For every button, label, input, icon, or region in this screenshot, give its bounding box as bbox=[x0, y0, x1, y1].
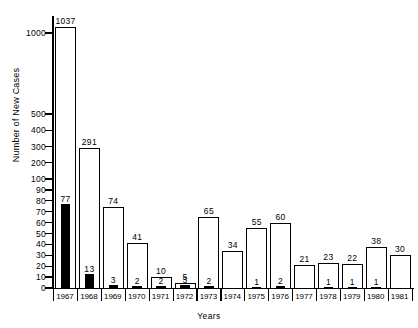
bar-total-value: 291 bbox=[71, 137, 108, 147]
bar-total-value: 74 bbox=[95, 196, 132, 206]
bar-subset bbox=[371, 287, 381, 288]
y-tick-label: 40 bbox=[36, 239, 46, 249]
bar-total-value: 41 bbox=[119, 232, 156, 242]
bar-total bbox=[390, 255, 411, 288]
bar-total-value: 1037 bbox=[47, 16, 84, 26]
y-tick-mark bbox=[45, 287, 53, 288]
x-tick-label-1971: 1971 bbox=[149, 292, 173, 301]
y-tick-mark bbox=[45, 222, 53, 223]
y-tick-label: 20 bbox=[36, 261, 46, 271]
bar-subset bbox=[180, 285, 190, 288]
y-tick-label: 50 bbox=[36, 229, 46, 239]
x-tick-label-1978: 1978 bbox=[316, 292, 340, 301]
y-axis-line bbox=[52, 16, 54, 288]
y-tick-label: 60 bbox=[36, 218, 46, 228]
bar-total-value: 60 bbox=[262, 212, 299, 222]
y-tick-mark bbox=[45, 276, 53, 277]
y-tick-label: 200 bbox=[31, 158, 46, 168]
y-tick-mark bbox=[45, 211, 53, 212]
x-axis-title: Years bbox=[0, 311, 418, 321]
x-tick-label-1973: 1973 bbox=[196, 292, 220, 301]
y-tick-label: 0 bbox=[41, 283, 46, 293]
y-tick-mark bbox=[45, 113, 53, 114]
y-tick-label: 300 bbox=[31, 142, 46, 152]
x-tick-label-1976: 1976 bbox=[268, 292, 292, 301]
x-tick-label-1975: 1975 bbox=[244, 292, 268, 301]
bar-subset bbox=[204, 286, 214, 288]
y-tick-label: 100 bbox=[31, 174, 46, 184]
bar-total-value: 30 bbox=[382, 244, 418, 254]
y-tick-label: 80 bbox=[36, 196, 46, 206]
y-tick-mark bbox=[45, 244, 53, 245]
bar-subset bbox=[252, 287, 262, 288]
bar-subset bbox=[85, 274, 95, 288]
y-tick-mark bbox=[45, 146, 53, 147]
y-tick-mark bbox=[45, 32, 53, 33]
y-tick-mark bbox=[45, 233, 53, 234]
y-tick-label: 30 bbox=[36, 250, 46, 260]
bar-chart: Number of New Cases 10005004003002001009… bbox=[0, 0, 418, 328]
y-tick-mark bbox=[45, 130, 53, 131]
bar-subset bbox=[156, 286, 166, 288]
x-tick-label-1969: 1969 bbox=[101, 292, 125, 301]
y-tick-label: 10 bbox=[36, 272, 46, 282]
y-tick-mark bbox=[45, 266, 53, 267]
bar-subset-value: 2 bbox=[192, 276, 225, 286]
x-tick-label-1977: 1977 bbox=[292, 292, 316, 301]
x-tick-mark bbox=[412, 288, 413, 301]
x-tick-label-1981: 1981 bbox=[388, 292, 412, 301]
y-tick-mark bbox=[45, 255, 53, 256]
bar-total-value: 65 bbox=[190, 206, 227, 216]
x-tick-label-1967: 1967 bbox=[53, 292, 77, 301]
y-tick-label: 400 bbox=[31, 125, 46, 135]
x-tick-label-1968: 1968 bbox=[77, 292, 101, 301]
bar-subset bbox=[61, 204, 71, 288]
x-tick-label-1979: 1979 bbox=[340, 292, 364, 301]
x-tick-label-1970: 1970 bbox=[125, 292, 149, 301]
x-tick-label-1980: 1980 bbox=[364, 292, 388, 301]
y-tick-label: 500 bbox=[31, 109, 46, 119]
y-tick-mark bbox=[45, 178, 53, 179]
y-tick-mark bbox=[45, 162, 53, 163]
bar-subset bbox=[109, 285, 119, 288]
x-tick-label-1972: 1972 bbox=[173, 292, 197, 301]
bar-subset bbox=[324, 287, 334, 288]
y-tick-label: 1000 bbox=[26, 28, 46, 38]
bar-subset bbox=[132, 286, 142, 288]
bar-subset-value: 77 bbox=[49, 194, 82, 204]
bar-subset bbox=[276, 286, 286, 288]
bar-subset-value: 13 bbox=[73, 264, 106, 274]
y-tick-label: 70 bbox=[36, 207, 46, 217]
y-tick-label: 90 bbox=[36, 185, 46, 195]
y-tick-mark bbox=[45, 189, 53, 190]
bar-subset-value: 1 bbox=[360, 277, 393, 287]
bar-subset bbox=[348, 287, 358, 288]
y-axis-title: Number of New Cases bbox=[11, 55, 21, 175]
x-tick-label-1974: 1974 bbox=[220, 292, 244, 301]
bar-subset-value: 2 bbox=[264, 276, 297, 286]
